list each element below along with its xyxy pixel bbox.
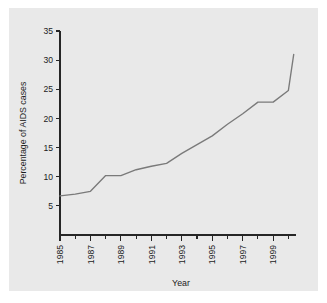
- y-tick-label-35: 35: [43, 26, 53, 36]
- x-tick-label-1989: 1989: [116, 245, 126, 264]
- chart-figure: 5101520253035 Percentage of AIDS cases 1…: [9, 8, 318, 291]
- y-tick-label-10: 10: [43, 172, 53, 182]
- y-axis-ticks: [56, 31, 60, 206]
- line-chart: 5101520253035 Percentage of AIDS cases 1…: [9, 8, 318, 291]
- y-tick-label-5: 5: [48, 201, 53, 211]
- y-tick-label-30: 30: [43, 55, 53, 65]
- y-tick-label-15: 15: [43, 143, 53, 153]
- x-tick-label-1995: 1995: [207, 245, 217, 264]
- x-axis: 19851987198919911993199519971999 Year: [55, 235, 296, 288]
- data-series-line: [60, 54, 294, 196]
- y-axis: 5101520253035 Percentage of AIDS cases: [18, 26, 60, 235]
- x-axis-tick-labels: 19851987198919911993199519971999: [55, 245, 278, 264]
- y-tick-label-25: 25: [43, 84, 53, 94]
- x-axis-ticks: [60, 235, 288, 241]
- x-tick-label-1997: 1997: [238, 245, 248, 264]
- x-tick-label-1987: 1987: [86, 245, 96, 264]
- x-tick-label-1999: 1999: [268, 245, 278, 264]
- x-tick-label-1993: 1993: [177, 245, 187, 264]
- y-axis-title: Percentage of AIDS cases: [18, 81, 28, 184]
- x-tick-label-1985: 1985: [55, 245, 65, 264]
- x-axis-title: Year: [172, 278, 190, 288]
- y-tick-label-20: 20: [43, 114, 53, 124]
- y-axis-tick-labels: 5101520253035: [43, 26, 53, 211]
- x-tick-label-1991: 1991: [147, 245, 157, 264]
